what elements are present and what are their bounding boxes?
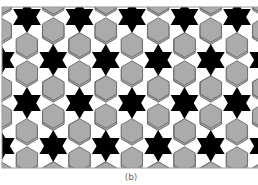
gray-hexagon-tile [69, 0, 90, 1]
gray-hexagon-tile [69, 0, 90, 1]
gray-hexagon-tile [226, 0, 247, 1]
gray-hexagon-tile [16, 0, 37, 1]
gray-hexagon-tile [121, 0, 142, 1]
gray-hexagon-tile [174, 0, 195, 1]
tiling-figure [0, 0, 258, 185]
figure-caption: (b) [0, 172, 258, 182]
gray-hexagon-tile [174, 0, 195, 1]
